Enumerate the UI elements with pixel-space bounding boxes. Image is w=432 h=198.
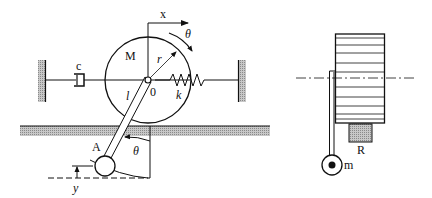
- radius-label: r: [157, 52, 162, 66]
- y-displacement-label: y: [72, 181, 79, 195]
- bob-center-dot: [329, 162, 336, 169]
- x-axis-label: x: [160, 7, 166, 21]
- x-axis-reference: [148, 23, 188, 80]
- y-displacement: [72, 166, 93, 178]
- spring-label: k: [176, 88, 182, 102]
- right-wall: [239, 60, 247, 102]
- center-pivot: [145, 77, 151, 83]
- mass-label: M: [125, 49, 136, 63]
- right-panel: R m: [296, 34, 414, 175]
- pendulum-point-label: A: [92, 140, 101, 154]
- damper: [46, 74, 107, 86]
- left-panel: c x θ r M k: [20, 7, 270, 195]
- pendulum-mass-label: m: [344, 158, 354, 172]
- diagram-canvas: c x θ r M k: [0, 0, 432, 198]
- theta-top-label: θ: [185, 27, 191, 41]
- radius-block-label: R: [357, 143, 365, 157]
- length-label: l: [126, 89, 130, 103]
- theta-bottom-label: θ: [133, 144, 139, 158]
- damper-label: c: [76, 59, 81, 73]
- angle-arrow-icon: [125, 137, 150, 141]
- radius-block: [349, 124, 372, 142]
- pendulum-bob: [95, 156, 115, 176]
- center-label: 0: [150, 85, 156, 99]
- spring: [155, 74, 238, 86]
- right-pendulum-rod: [330, 71, 336, 155]
- ground: [20, 126, 270, 136]
- drum: [336, 34, 385, 123]
- left-wall: [38, 60, 46, 102]
